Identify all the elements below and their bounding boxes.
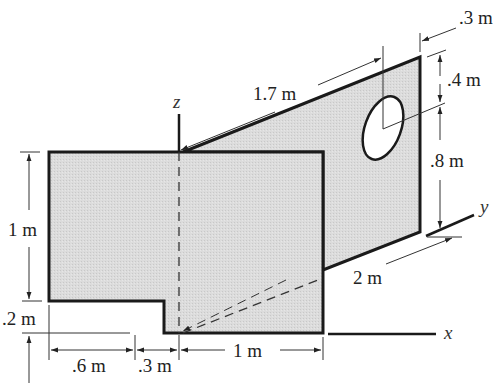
dim-label-left-height: 1 m bbox=[8, 220, 37, 239]
x-axis-label: x bbox=[444, 323, 452, 342]
dim-label-slant: 1.7 m bbox=[253, 84, 296, 103]
dim-label-hole-offset: .3 m bbox=[459, 8, 493, 27]
z-axis-label: z bbox=[173, 92, 180, 111]
dim-label-bottom-right: 1 m bbox=[233, 341, 262, 360]
dim-label-hole-top: .4 m bbox=[447, 70, 481, 89]
y-axis-label: y bbox=[480, 197, 488, 216]
diagram-drawing bbox=[0, 0, 504, 384]
dim-label-bottom-mid: .3 m bbox=[138, 356, 172, 375]
y-axis-line bbox=[426, 215, 474, 236]
l-shaped-plate bbox=[49, 152, 323, 333]
dim-hole-offset bbox=[420, 28, 456, 52]
plate-diagram: z y x 1.7 m .3 m .4 m .8 m 2 m 1 m .2 m … bbox=[0, 0, 504, 384]
dim-label-depth: 2 m bbox=[353, 268, 382, 287]
dim-label-hole-bottom: .8 m bbox=[430, 151, 464, 170]
dim-label-step-height: .2 m bbox=[2, 309, 36, 328]
dim-label-bottom-left: .6 m bbox=[72, 356, 106, 375]
